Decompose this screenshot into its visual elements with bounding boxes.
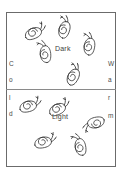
panel-label-dark: Dark (55, 45, 71, 52)
gradient-letter-left-1: o (9, 77, 13, 84)
gradient-letter-left-3: d (9, 111, 13, 118)
figure-canvas: Dark Light ColdWarm (0, 0, 128, 183)
panel-divider (6, 89, 116, 90)
gradient-letter-left-0: C (9, 61, 14, 68)
panel-label-light: Light (52, 113, 68, 120)
gradient-letter-right-1: a (108, 77, 112, 84)
gradient-letter-left-2: l (9, 95, 10, 102)
gradient-letter-right-3: m (108, 113, 113, 120)
gradient-letter-right-2: r (108, 95, 110, 102)
gradient-letter-right-0: W (108, 61, 114, 68)
